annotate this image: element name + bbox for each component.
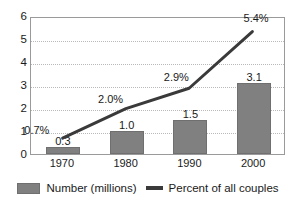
y-tick-label: 2 [3,103,27,115]
line-swatch-icon [146,186,163,190]
x-tick-label: 1990 [157,157,221,170]
y-tick-label: 5 [3,34,27,46]
chart-container: 0123456 0.31.01.53.1 0.7%2.0%2.9%5.4% 19… [0,0,296,204]
y-tick-label: 0 [3,149,27,161]
line-value-label: 5.4% [236,13,276,24]
legend-item-percent: Percent of all couples [146,182,279,194]
line-value-label: 2.9% [156,72,196,83]
x-tick-label: 1980 [94,157,158,170]
chart-legend: Number (millions) Percent of all couples [0,178,296,198]
y-tick-label: 3 [3,80,27,92]
bar-swatch-icon [17,183,40,194]
legend-label-number: Number (millions) [46,182,136,194]
y-tick-label: 4 [3,57,27,69]
line-value-label: 2.0% [91,94,131,105]
legend-label-percent: Percent of all couples [169,182,279,194]
x-axis: 1970198019902000 [30,157,285,172]
y-tick-label: 6 [3,11,27,23]
x-tick-label: 1970 [30,157,94,170]
percent-line [63,32,253,139]
x-tick-label: 2000 [221,157,285,170]
legend-item-number: Number (millions) [17,182,136,194]
plot-area: 0.31.01.53.1 0.7%2.0%2.9%5.4% [30,17,285,155]
line-series [31,18,284,154]
line-value-label: 0.7% [17,125,57,136]
